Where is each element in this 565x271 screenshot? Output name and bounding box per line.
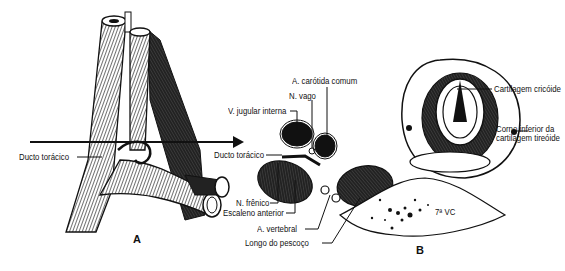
label-cricoid: Cartilagem cricóide [494, 85, 561, 94]
label-b-thoracic-duct: Ducto torácico [214, 151, 264, 160]
panel-a-letter: A [133, 233, 141, 245]
label-phrenic: N. frênico [236, 199, 269, 208]
arrow-head-icon [233, 136, 244, 148]
panel-b-letter: B [416, 244, 424, 256]
label-vertebra: 7ª VC [435, 208, 455, 217]
label-internal-jugular: V. jugular interna [228, 107, 286, 116]
label-vagus: N. vago [289, 92, 316, 101]
panel-a-drawing [66, 12, 229, 232]
label-common-carotid: A. carótida comum [292, 77, 357, 86]
label-a-thoracic-duct: Ducto torácico [19, 153, 69, 162]
label-scalene-anterior: Escaleno anterior [223, 209, 284, 218]
label-thyroid-horn-line2: cartilagem tireóide [496, 134, 560, 143]
label-longus-colli: Longo do pescoço [245, 239, 309, 248]
label-vertebral-artery: A. vertebral [257, 225, 297, 234]
